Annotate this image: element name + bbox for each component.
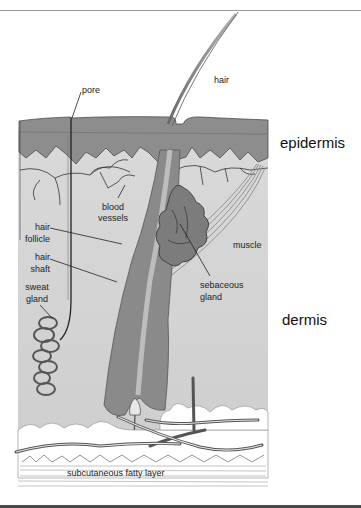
label-blood-vessels-line1: blood: [90, 202, 136, 213]
label-hair-follicle-line1: hair: [20, 222, 50, 233]
label-hair-shaft-line1: hair: [20, 252, 50, 263]
label-hair-shaft-line2: shaft: [16, 264, 50, 275]
label-sweat-gland-line1: sweat: [22, 282, 52, 293]
label-pore: pore: [82, 85, 100, 96]
label-sebaceous-gland-line2: gland: [200, 292, 222, 303]
label-epidermis: epidermis: [280, 134, 345, 151]
label-dermis: dermis: [282, 311, 327, 328]
label-subcutaneous-fatty-layer: subcutaneous fatty layer: [67, 468, 165, 479]
label-sebaceous-gland-line1: sebaceous: [200, 280, 244, 291]
label-blood-vessels-line2: vessels: [90, 213, 136, 224]
label-muscle: muscle: [233, 240, 262, 251]
skin-illustration: [0, 0, 361, 508]
label-hair-follicle-line2: follicle: [10, 234, 50, 245]
label-sweat-gland-line2: gland: [22, 294, 52, 305]
label-hair: hair: [214, 75, 229, 86]
hair-strand: [168, 14, 236, 124]
